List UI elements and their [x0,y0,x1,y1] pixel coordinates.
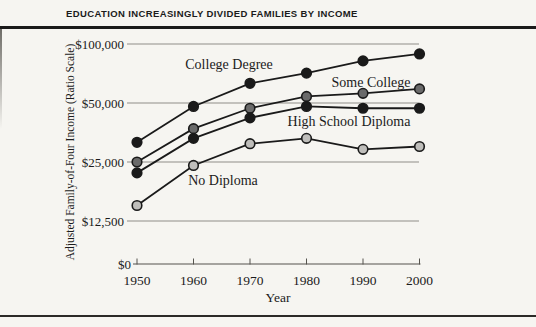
data-point-college-degree-2000 [415,49,425,59]
data-point-college-degree-1970 [245,79,255,89]
data-point-some-college-1960 [189,124,199,134]
x-tick-label-1950: 1950 [124,273,151,288]
x-tick-label-1970: 1970 [237,273,264,288]
x-tick-label-1980: 1980 [293,273,320,288]
series-line-college-degree [137,54,420,142]
data-point-no-diploma-2000 [415,142,425,152]
data-point-high-school-diploma-2000 [415,103,425,113]
data-point-college-degree-1960 [189,102,199,112]
y-tick-label-12500: $12,500 [82,214,124,229]
data-point-high-school-diploma-1990 [358,103,368,113]
series-label-no-diploma: No Diploma [188,173,258,188]
data-point-no-diploma-1970 [245,139,255,149]
series-label-college-degree: College Degree [185,57,272,72]
y-tick-label-100000: $100,000 [75,37,124,52]
data-point-high-school-diploma-1980 [302,102,312,112]
data-point-some-college-1980 [302,92,312,102]
data-point-no-diploma-1960 [189,161,199,171]
data-point-high-school-diploma-1970 [245,113,255,123]
x-tick-label-1960: 1960 [180,273,207,288]
data-point-college-degree-1950 [132,138,142,148]
y-tick-label-50000: $50,000 [82,96,124,111]
x-axis-title: Year [266,290,291,305]
x-tick-label-2000: 2000 [406,273,433,288]
series-line-no-diploma [137,138,420,205]
x-tick-label-1990: 1990 [350,273,377,288]
data-point-high-school-diploma-1950 [132,168,142,178]
data-point-some-college-1970 [245,103,255,113]
series-label-high-school-diploma: High School Diploma [288,114,412,129]
data-point-college-degree-1980 [302,68,312,78]
bottom-rule [0,315,536,317]
data-point-no-diploma-1980 [302,134,312,144]
data-point-some-college-2000 [415,84,425,94]
scanned-page: EDUCATION INCREASINGLY DIVIDED FAMILIES … [0,0,536,327]
y-tick-label-zero: $0 [118,257,131,272]
income-by-education-line-chart: $100,000$50,000$25,000$12,500$0195019601… [0,0,536,327]
data-point-high-school-diploma-1960 [189,134,199,144]
data-point-no-diploma-1990 [358,145,368,155]
data-point-college-degree-1990 [358,56,368,66]
y-tick-label-25000: $25,000 [82,155,124,170]
y-axis-title: Adjusted Family-of-Four Income (Ratio Sc… [64,44,77,261]
data-point-no-diploma-1950 [132,201,142,211]
data-point-some-college-1950 [132,157,142,167]
series-label-some-college: Some College [332,75,411,90]
